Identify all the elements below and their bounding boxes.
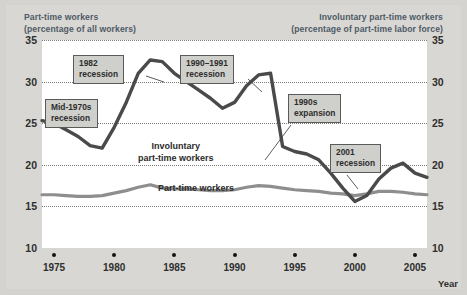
callout-1982-recession: 1982 recession xyxy=(73,55,124,84)
callout-1982-recession-line2: recession xyxy=(79,69,118,80)
callout-2001-recession-line1: 2001 xyxy=(336,147,375,158)
callout-1990-1991-recession-line1: 1990–1991 xyxy=(186,58,228,69)
callout-mid-1970s-recession: Mid-1970s recession xyxy=(45,99,98,128)
callout-1990s-expansion: 1990s expansion xyxy=(288,94,341,123)
callout-1990s-expansion-line1: 1990s xyxy=(294,97,335,108)
callout-2001-recession: 2001 recession xyxy=(330,144,381,173)
callout-2001-recession-line2: recession xyxy=(336,158,375,169)
callout-1990-1991-recession: 1990–1991 recession xyxy=(180,55,234,84)
callout-mid-1970s-recession-line2: recession xyxy=(51,113,92,124)
callout-mid-1970s-recession-line1: Mid-1970s xyxy=(51,102,92,113)
chart-figure: Part-time workers (percentage of all wor… xyxy=(0,0,467,295)
callout-leader-lines xyxy=(0,0,467,295)
callout-1982-recession-line1: 1982 xyxy=(79,58,118,69)
callout-1990-1991-recession-line2: recession xyxy=(186,69,228,80)
callout-1990s-expansion-line2: expansion xyxy=(294,108,335,119)
